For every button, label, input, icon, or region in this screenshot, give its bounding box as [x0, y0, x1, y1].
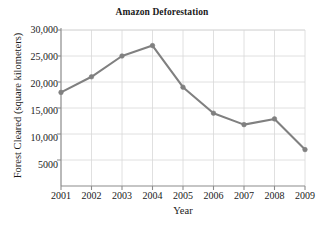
- data-point-2005: [181, 85, 186, 90]
- data-point-2002: [89, 75, 94, 80]
- gridlines: [61, 30, 305, 186]
- data-point-2003: [120, 54, 125, 59]
- data-point-2001: [59, 90, 64, 95]
- data-point-2004: [150, 43, 155, 48]
- data-point-2009: [303, 147, 308, 152]
- plot-area: [0, 0, 324, 227]
- chart-figure: Amazon Deforestation Forest Cleared (squ…: [0, 0, 324, 227]
- data-point-2007: [242, 122, 247, 127]
- data-point-2008: [272, 117, 277, 122]
- tick-marks: [57, 30, 305, 190]
- data-point-2006: [211, 111, 216, 116]
